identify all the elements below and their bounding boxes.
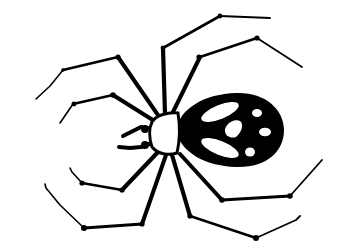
spider-drawing: [0, 0, 337, 248]
abdomen-marking: [252, 109, 262, 117]
abdomen-marking: [259, 128, 271, 136]
abdomen-marking: [245, 148, 255, 157]
cephalothorax: [150, 113, 180, 155]
spider-illustration: spider: [0, 0, 337, 248]
